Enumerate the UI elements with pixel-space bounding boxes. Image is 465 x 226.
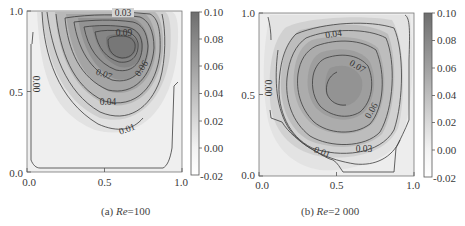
colorbar-tick-label: 0.00 [204,142,224,154]
colorbar-tick-label: -0.02 [433,172,456,184]
contour-label: 0.03 [356,144,373,154]
contour-label: 0.09 [116,28,133,38]
colorbar-b: 0.10 0.08 0.06 0.04 0.02 0.00 -0.02 [424,7,457,184]
y-tick-label: 0.5 [241,89,255,101]
colorbar-tick-label: 0.10 [204,6,224,18]
colorbar-tick-label: 0.08 [204,33,224,45]
x-tick-label: 0.0 [22,176,36,188]
colorbar-a: 0.10 0.08 0.06 0.04 0.02 0.00 -0.02 [191,6,224,182]
caption-b-variable: Re [317,205,329,217]
plot-area-a [27,11,182,172]
panel-b: 1.0 0.5 0.0 0.0 0.5 1.0 0.04 0.07 0.06 0… [241,7,457,191]
contour-label: 0.03 [115,8,132,18]
x-tick-label: 0.5 [330,179,344,191]
panel-a: 1.0 0.5 0.0 0.0 0.5 1.0 0.03 0.09 0.06 0… [9,5,224,188]
colorbar-tick-label: 0.06 [437,62,457,74]
caption-a-variable: Re [116,205,128,217]
x-tick-label: 1.0 [174,176,188,188]
colorbar-tick-label: 0.00 [437,144,457,156]
y-tick-label: 0.0 [241,169,255,181]
figure: 1.0 0.5 0.0 0.0 0.5 1.0 0.03 0.09 0.06 0… [0,0,465,226]
caption-b: (b) Re=2 000 [301,205,359,217]
y-tick-label: 1.0 [9,5,23,17]
colorbar-tick-label: 0.04 [437,89,457,101]
contour-label: 0.00 [263,80,273,97]
colorbar-tick-label: 0.04 [204,87,224,99]
x-tick-label: 0.5 [98,176,112,188]
colorbar-tick-label: 0.06 [204,60,224,72]
x-tick-label: 1.0 [406,179,420,191]
contour-label: 0.04 [100,97,117,107]
contour-label: 0.00 [31,76,41,93]
caption-b-prefix: (b) [301,205,314,217]
caption-b-value: 2 000 [334,205,359,217]
caption-a-value: 100 [134,205,151,217]
colorbar-tick-label: -0.02 [200,170,223,182]
colorbar-tick-label: 0.10 [437,7,457,19]
caption-a-prefix: (a) [101,205,113,217]
colorbar-tick-label: 0.08 [437,34,457,46]
colorbar-tick-label: 0.02 [204,115,223,127]
colorbar-tick-label: 0.02 [437,116,456,128]
caption-a: (a) Re=100 [101,205,150,217]
y-tick-label: 1.0 [241,7,255,19]
y-tick-label: 0.5 [9,86,23,98]
x-tick-label: 0.0 [255,179,269,191]
